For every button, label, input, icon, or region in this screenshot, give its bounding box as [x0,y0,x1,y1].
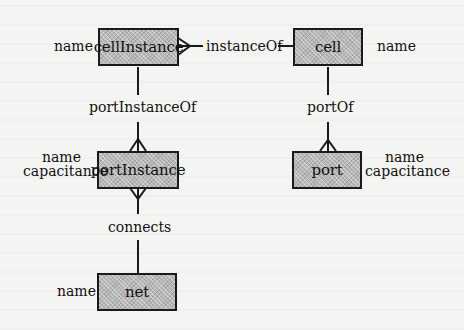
relationship-portInstanceOf: portInstanceOf [89,100,196,115]
entity-net[interactable]: net [97,273,177,311]
attribute-cell-name: name [377,39,416,54]
relationship-instanceOf: instanceOf [206,39,282,54]
attribute-portInstance-capacitance: capacitance [23,164,108,179]
entity-port[interactable]: port [292,151,362,189]
entity-portInstance[interactable]: portInstance [97,151,179,189]
entity-label: net [125,283,149,301]
entity-label: cellInstance [94,38,184,56]
attribute-net-name: name [57,284,96,299]
entity-cellInstance[interactable]: cellInstance [98,28,179,66]
relationship-portOf: portOf [307,100,353,115]
entity-label: cell [315,38,341,56]
entity-label: port [311,161,342,179]
attribute-port-capacitance: capacitance [365,164,450,179]
relationship-connects: connects [108,220,171,235]
entity-cell[interactable]: cell [293,28,363,66]
attribute-cellInstance-name: name [54,39,93,54]
